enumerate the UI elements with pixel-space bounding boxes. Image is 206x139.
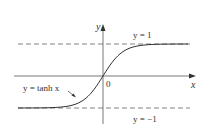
origin-label: 0 — [106, 79, 111, 89]
function-label: y = tanh x — [23, 83, 60, 93]
y-axis-arrow-icon — [101, 24, 106, 31]
asymptote-label-top: y = 1 — [133, 30, 152, 40]
x-axis-label: x — [190, 79, 196, 90]
tanh-graph: y x 0 y = 1 y = −1 y = tanh x — [0, 0, 206, 139]
y-axis-label: y — [95, 21, 101, 32]
asymptote-label-bottom: y = −1 — [133, 114, 157, 124]
x-axis-arrow-icon — [189, 74, 196, 79]
